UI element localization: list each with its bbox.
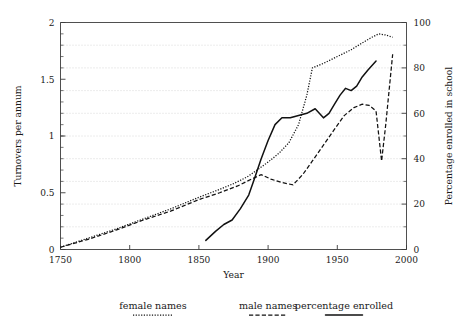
- legend-label-1: male names: [239, 300, 297, 311]
- x-tick-label-1950: 1950: [326, 255, 349, 265]
- y2-tick-label-0: 0: [414, 245, 420, 255]
- y2-tick-label-20: 20: [414, 199, 426, 209]
- y-tick-label-1.5: 1.5: [40, 75, 55, 85]
- x-tick-label-2000: 2000: [395, 255, 418, 265]
- x-tick-label-1900: 1900: [257, 255, 280, 265]
- y-axis-title: Turnovers per annum: [12, 85, 23, 186]
- chart-figure: 175018001850190019502000 00.511.52 02040…: [0, 0, 476, 334]
- legend-label-2: percentage enrolled: [295, 300, 393, 311]
- x-tick-label-1750: 1750: [49, 255, 72, 265]
- y-tick-label-2: 2: [49, 18, 55, 28]
- y2-tick-label-40: 40: [414, 154, 426, 164]
- chart-background: [0, 0, 476, 334]
- x-axis-title: Year: [222, 269, 244, 280]
- x-tick-label-1850: 1850: [187, 255, 210, 265]
- y2-tick-label-60: 60: [414, 109, 426, 119]
- legend-label-0: female names: [119, 300, 187, 311]
- y-tick-label-0: 0: [49, 245, 55, 255]
- y-tick-label-1: 1: [49, 131, 55, 141]
- y-tick-label-0.5: 0.5: [40, 188, 55, 198]
- y2-axis-title: Percentage enrolled in school: [443, 67, 454, 206]
- x-tick-label-1800: 1800: [118, 255, 141, 265]
- y2-tick-label-80: 80: [414, 63, 426, 73]
- y2-tick-label-100: 100: [414, 18, 431, 28]
